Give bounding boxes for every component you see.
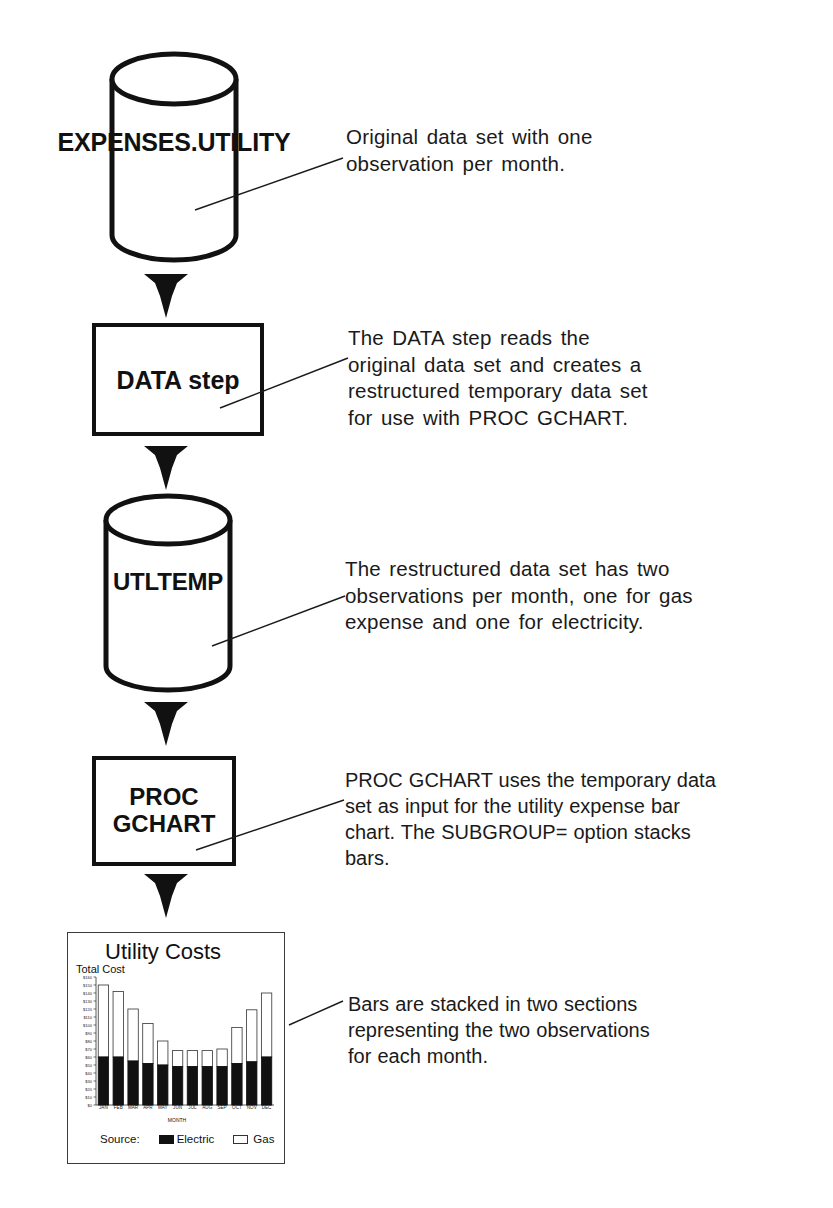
svg-text:$20: $20 <box>85 1087 92 1092</box>
svg-text:SEP: SEP <box>217 1105 226 1110</box>
chart-x-tick-labels: JANFEBMARAPRMAYJUNJULAUGSEPOCTNOVDEC <box>78 1103 276 1117</box>
chart-plot-area: $160$150$140$130$120$110$100$90$80$70$60… <box>78 975 276 1107</box>
cylinder-shape-icon <box>109 52 239 262</box>
svg-text:$30: $30 <box>85 1079 92 1084</box>
svg-text:$110: $110 <box>83 1015 92 1020</box>
flow-arrow-4-icon <box>143 872 189 919</box>
legend-title: Source: <box>100 1133 140 1145</box>
legend-label-electric: Electric <box>177 1133 215 1145</box>
dataset-node-utltemp: UTLTEMP <box>103 495 233 691</box>
legend-swatch-gas-icon <box>233 1135 248 1144</box>
annotation-utltemp: The restructured data set has two observ… <box>345 556 745 636</box>
svg-text:$100: $100 <box>83 1023 93 1028</box>
svg-text:$60: $60 <box>85 1055 92 1060</box>
chart-bars-and-axes: $160$150$140$130$120$110$100$90$80$70$60… <box>78 975 276 1107</box>
chart-legend: Source: Electric Gas <box>100 1133 274 1145</box>
svg-text:$160: $160 <box>83 975 93 980</box>
svg-text:$70: $70 <box>85 1047 92 1052</box>
svg-text:$10: $10 <box>85 1095 92 1100</box>
svg-text:OCT: OCT <box>232 1105 242 1110</box>
svg-text:$140: $140 <box>83 991 93 996</box>
leader-line-data-step <box>220 358 350 410</box>
svg-text:$50: $50 <box>85 1063 92 1068</box>
svg-text:$130: $130 <box>83 999 93 1004</box>
flow-arrow-2-icon <box>143 444 189 491</box>
leader-line-utltemp <box>212 596 347 648</box>
legend-label-gas: Gas <box>253 1133 274 1145</box>
chart-y-axis-label: Total Cost <box>76 963 125 975</box>
dataset-node-expenses-utility: EXPENSES.UTILITY <box>109 52 239 262</box>
svg-text:MAY: MAY <box>158 1105 168 1110</box>
flow-diagram-canvas: EXPENSES.UTILITY Original data set with … <box>0 0 833 1208</box>
legend-swatch-electric-icon <box>159 1135 174 1144</box>
output-chart-thumbnail: Utility Costs Total Cost $160$150$140$13… <box>67 932 285 1164</box>
leader-line-output-chart <box>289 1001 345 1027</box>
annotation-expenses-utility: Original data set with one observation p… <box>346 124 676 177</box>
svg-text:JUL: JUL <box>188 1105 197 1110</box>
chart-x-axis-label: MONTH <box>68 1117 286 1123</box>
svg-text:AUG: AUG <box>202 1105 212 1110</box>
flow-arrow-1-icon <box>143 272 189 319</box>
svg-text:$40: $40 <box>85 1071 92 1076</box>
svg-text:NOV: NOV <box>247 1105 258 1110</box>
svg-text:$120: $120 <box>83 1007 93 1012</box>
svg-text:FEB: FEB <box>114 1105 123 1110</box>
svg-text:MAR: MAR <box>128 1105 139 1110</box>
svg-text:JAN: JAN <box>99 1105 108 1110</box>
annotation-proc-gchart: PROC GCHART uses the temporary data set … <box>345 767 765 871</box>
dataset-label-expenses-utility: EXPENSES.UTILITY <box>19 128 329 157</box>
svg-text:$150: $150 <box>83 983 93 988</box>
svg-text:DEC: DEC <box>262 1105 272 1110</box>
chart-title: Utility Costs <box>105 939 221 965</box>
leader-line-expenses <box>195 158 345 218</box>
svg-text:APR: APR <box>143 1105 153 1110</box>
svg-text:$80: $80 <box>85 1039 92 1044</box>
svg-text:JUN: JUN <box>173 1105 182 1110</box>
dataset-label-utltemp: UTLTEMP <box>73 568 263 596</box>
annotation-output-chart: Bars are stacked in two sections represe… <box>348 991 748 1069</box>
flow-arrow-3-icon <box>143 700 189 747</box>
annotation-data-step: The DATA step reads the original data se… <box>348 325 698 432</box>
svg-text:$90: $90 <box>85 1031 92 1036</box>
leader-line-proc-gchart <box>196 800 346 852</box>
